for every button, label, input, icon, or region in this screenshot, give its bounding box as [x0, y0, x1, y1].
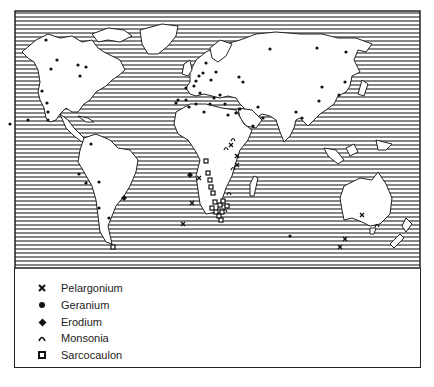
geranium-marker: [256, 105, 259, 108]
sarcocaulon-marker: [210, 206, 214, 210]
geranium-marker: [84, 181, 87, 184]
geranium-marker: [197, 74, 200, 77]
sarcocaulon-marker: [225, 204, 229, 208]
geranium-marker: [208, 102, 211, 105]
sarcocaulon-marker: [213, 200, 217, 204]
geranium-marker: [78, 74, 81, 77]
geranium-marker: [45, 101, 48, 104]
geranium-marker: [261, 116, 264, 119]
legend-item-geranium: Geranium: [35, 297, 109, 313]
sarcocaulon-marker: [220, 210, 224, 214]
geranium-marker: [214, 70, 217, 73]
legend-item-erodium: Erodium: [35, 314, 102, 330]
geranium-marker: [344, 50, 347, 53]
geranium-marker: [8, 122, 11, 125]
arc-icon: [35, 334, 49, 342]
sarcocaulon-marker: [208, 178, 212, 182]
geranium-marker: [202, 110, 205, 113]
geranium-marker: [49, 67, 52, 70]
geranium-marker: [204, 61, 207, 64]
geranium-marker: [337, 93, 340, 96]
legend-label: Erodium: [61, 316, 102, 328]
geranium-marker: [268, 47, 271, 50]
geranium-marker: [184, 86, 187, 89]
geranium-marker: [251, 124, 254, 127]
geranium-marker: [209, 78, 212, 81]
legend-item-sarcocaulon: Sarcocaulon: [35, 347, 122, 363]
legend-label: Monsonia: [61, 332, 109, 344]
geranium-marker: [300, 116, 303, 119]
cross-icon: [35, 284, 49, 292]
geranium-marker: [40, 89, 43, 92]
geranium-marker: [89, 142, 92, 145]
geranium-marker: [55, 58, 58, 61]
geranium-marker: [97, 180, 100, 183]
sarcocaulon-marker: [111, 245, 115, 249]
geranium-marker: [212, 96, 215, 99]
geranium-marker: [97, 206, 100, 209]
sarcocaulon-marker: [217, 214, 221, 218]
geranium-marker: [194, 102, 197, 105]
geranium-marker: [238, 107, 241, 110]
geranium-marker: [176, 98, 179, 101]
legend: Pelargonium Geranium Erodium Monsonia Sa…: [14, 268, 421, 368]
geranium-marker: [198, 91, 201, 94]
geranium-marker: [218, 93, 221, 96]
geranium-marker: [184, 98, 187, 101]
geranium-marker: [187, 105, 190, 108]
geranium-marker: [223, 102, 226, 105]
geranium-marker: [44, 38, 47, 41]
diamond-dot-icon: [35, 318, 49, 327]
geranium-marker: [315, 46, 318, 49]
legend-label: Pelargonium: [61, 282, 123, 294]
geranium-marker: [226, 113, 229, 116]
geranium-marker: [320, 85, 323, 88]
geranium-marker: [26, 118, 29, 121]
geranium-marker: [234, 111, 237, 114]
geranium-marker: [194, 79, 197, 82]
geranium-marker: [76, 63, 79, 66]
geranium-marker: [77, 172, 80, 175]
sarcocaulon-marker: [218, 203, 222, 207]
geranium-marker: [241, 80, 244, 83]
legend-label: Sarcocaulon: [61, 349, 122, 361]
legend-item-pelargonium: Pelargonium: [35, 280, 123, 296]
square-icon: [35, 351, 49, 359]
geranium-marker: [294, 110, 297, 113]
legend-label: Geranium: [61, 299, 109, 311]
geranium-marker: [192, 84, 195, 87]
geranium-marker: [288, 234, 291, 237]
sarcocaulon-marker: [211, 191, 215, 195]
sarcocaulon-marker: [214, 210, 218, 214]
sarcocaulon-marker: [204, 159, 208, 163]
geranium-marker: [201, 71, 204, 74]
geranium-marker: [237, 75, 240, 78]
geranium-marker: [317, 99, 320, 102]
legend-item-monsonia: Monsonia: [35, 330, 109, 346]
sarcocaulon-marker: [206, 171, 210, 175]
sarcocaulon-marker: [219, 218, 223, 222]
geranium-marker: [46, 118, 49, 121]
sarcocaulon-marker: [209, 185, 213, 189]
dot-icon: [35, 301, 49, 309]
geranium-marker: [46, 110, 49, 113]
sarcocaulon-marker: [221, 199, 225, 203]
geranium-marker: [174, 101, 177, 104]
geranium-marker: [84, 65, 87, 68]
geranium-marker: [107, 216, 110, 219]
geranium-marker: [343, 80, 346, 83]
